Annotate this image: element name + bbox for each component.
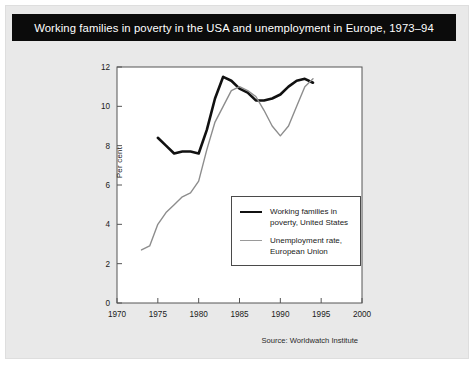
legend-item-european-union: Unemployment rate, European Union <box>240 235 342 257</box>
svg-text:1990: 1990 <box>271 310 290 319</box>
svg-text:10: 10 <box>101 102 111 111</box>
legend-item-united-states: Working families in poverty, United Stat… <box>240 206 348 228</box>
svg-text:8: 8 <box>105 142 110 151</box>
legend-swatch-line-icon <box>240 211 262 213</box>
chart-svg: 024681012 1970197519801985199019952000 <box>6 6 468 358</box>
y-axis-label: Per cent <box>115 133 124 193</box>
legend-label-european-union: Unemployment rate, European Union <box>270 235 342 257</box>
svg-text:1980: 1980 <box>190 310 209 319</box>
svg-text:1985: 1985 <box>230 310 249 319</box>
source-caption: Source: Worldwatch Institute <box>261 336 358 345</box>
svg-text:1995: 1995 <box>312 310 331 319</box>
svg-text:2000: 2000 <box>353 310 372 319</box>
svg-text:1975: 1975 <box>149 310 168 319</box>
svg-text:0: 0 <box>105 299 110 308</box>
legend-label-united-states: Working families in poverty, United Stat… <box>270 206 348 228</box>
legend-swatch-line-icon <box>240 240 262 241</box>
svg-text:6: 6 <box>105 181 110 190</box>
plot-frame <box>117 67 362 303</box>
svg-text:12: 12 <box>101 63 111 72</box>
svg-text:4: 4 <box>105 220 110 229</box>
svg-text:2: 2 <box>105 260 110 269</box>
chart-legend: Working families in poverty, United Stat… <box>231 196 361 266</box>
plot-area: 024681012 1970197519801985199019952000 P… <box>6 6 468 358</box>
svg-text:1970: 1970 <box>108 310 127 319</box>
figure-panel: Working families in poverty in the USA a… <box>6 6 468 358</box>
